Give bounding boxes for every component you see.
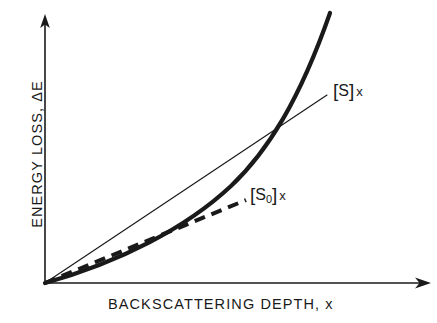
annotation-surface-energy-approx: [S0]x bbox=[250, 185, 286, 205]
y-axis-label: ENERGY LOSS, ΔE bbox=[29, 54, 45, 254]
symbol-s: S bbox=[255, 186, 266, 203]
variable-x: x bbox=[354, 84, 363, 99]
x-axis bbox=[45, 278, 431, 289]
series-curve-true-energy-loss bbox=[45, 13, 330, 283]
variable-x: x bbox=[277, 188, 286, 203]
symbol-s: S bbox=[338, 82, 349, 99]
plot-canvas bbox=[0, 0, 437, 323]
x-axis-label: BACKSCATTERING DEPTH, x bbox=[108, 296, 334, 312]
annotation-mean-stopping-power: [S]x bbox=[333, 81, 363, 100]
energy-loss-figure: ENERGY LOSS, ΔE BACKSCATTERING DEPTH, x … bbox=[0, 0, 437, 323]
series-line-surface-energy-approx bbox=[45, 200, 246, 283]
